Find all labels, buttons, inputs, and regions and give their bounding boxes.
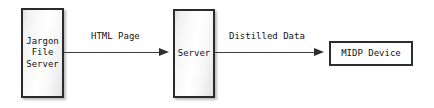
node-server-label: Server <box>178 48 211 60</box>
node-midp-device: MIDP Device <box>329 41 413 66</box>
arrowhead-right-icon <box>159 48 169 56</box>
edge-line-distilled-data <box>215 52 314 53</box>
node-midp-device-label: MIDP Device <box>341 48 401 60</box>
node-jargon-file-server-label: Jargon File Server <box>26 36 59 71</box>
node-server: Server <box>173 9 215 98</box>
edge-label-html-page: HTML Page <box>91 31 140 42</box>
arrowhead-right-icon <box>314 48 324 56</box>
edge-label-distilled-data: Distilled Data <box>229 31 305 42</box>
edge-line-html-page <box>64 52 159 53</box>
node-jargon-file-server: Jargon File Server <box>21 8 64 98</box>
flow-diagram: Jargon File Server HTML Page Server Dist… <box>0 0 434 108</box>
